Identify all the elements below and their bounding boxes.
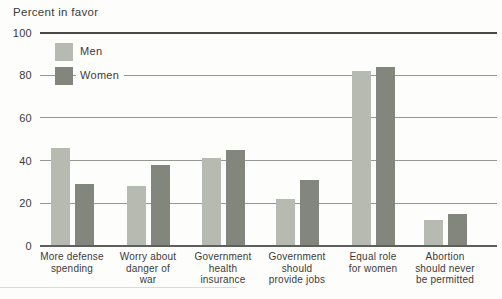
bar-men-6 xyxy=(424,220,443,246)
x-category-label-6: Abortion should never be permitted xyxy=(397,251,493,286)
bar-men-4 xyxy=(276,199,295,246)
gridline-40 xyxy=(40,160,497,161)
bar-women-3 xyxy=(226,150,245,246)
y-tick-label-20: 20 xyxy=(0,197,32,209)
bar-women-4 xyxy=(300,180,319,246)
legend-swatch-men xyxy=(55,43,73,61)
y-tick-label-100: 100 xyxy=(0,27,32,39)
legend-swatch-women xyxy=(55,67,73,85)
gridline-100 xyxy=(40,32,497,34)
legend-label-men: Men xyxy=(76,44,107,58)
bar-women-2 xyxy=(151,165,170,246)
bar-women-1 xyxy=(75,184,94,246)
y-tick-label-40: 40 xyxy=(0,155,32,167)
y-tick-label-80: 80 xyxy=(0,69,32,81)
chart-title: Percent in favor xyxy=(13,6,98,18)
bar-women-6 xyxy=(448,214,467,246)
figure-bottom-rule xyxy=(0,287,237,288)
bar-men-1 xyxy=(51,148,70,246)
gridline-20 xyxy=(40,203,497,204)
bar-men-2 xyxy=(127,186,146,246)
y-tick-label-60: 60 xyxy=(0,112,32,124)
bar-men-5 xyxy=(352,71,371,246)
legend-label-women: Women xyxy=(76,68,124,82)
gridline-0 xyxy=(40,245,497,247)
bar-men-3 xyxy=(202,158,221,246)
bar-chart-figure: Percent in favor Men Women 020406080100M… xyxy=(0,0,502,299)
bar-women-5 xyxy=(376,67,395,246)
gridline-60 xyxy=(40,117,497,118)
